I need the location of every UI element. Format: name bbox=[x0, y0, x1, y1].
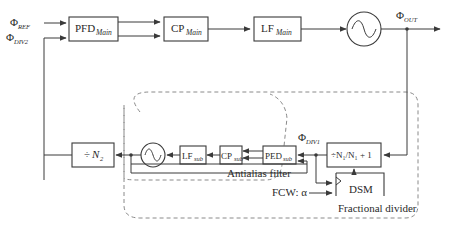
svg-text:Φ: Φ bbox=[6, 31, 14, 43]
svg-text:Φ: Φ bbox=[396, 9, 404, 21]
div2-feedback-arrow bbox=[44, 38, 66, 180]
vco-sub-icon bbox=[141, 143, 165, 167]
svg-text:DSM: DSM bbox=[349, 183, 373, 195]
svg-text:PFD: PFD bbox=[75, 22, 95, 34]
svg-text:DIV1: DIV1 bbox=[305, 138, 320, 145]
phi-out-label: Φ OUT bbox=[396, 9, 417, 23]
lf-sub-block: LF sub bbox=[180, 146, 206, 164]
svg-text:PED: PED bbox=[265, 151, 283, 161]
svg-text:Main: Main bbox=[95, 28, 112, 37]
cp-sub-block: CP sub bbox=[220, 146, 244, 164]
svg-text:sub: sub bbox=[234, 155, 244, 162]
ped-sub-block: PED sub bbox=[263, 146, 296, 164]
svg-text:CP: CP bbox=[171, 22, 184, 34]
pll-block-diagram: Φ REF Φ DIV2 PFD Main CP Main LF Main Φ … bbox=[0, 0, 450, 232]
svg-text:Φ: Φ bbox=[298, 131, 306, 143]
svg-text:Main: Main bbox=[275, 28, 292, 37]
phi-ref-label: Φ REF bbox=[10, 16, 31, 30]
dsm-block: DSM bbox=[336, 173, 384, 196]
svg-text:N: N bbox=[91, 148, 100, 160]
pfd-main-block: PFD Main bbox=[69, 17, 118, 41]
svg-text:sub: sub bbox=[283, 155, 293, 162]
svg-text:÷N₁/N₁ + 1: ÷N₁/N₁ + 1 bbox=[331, 150, 372, 160]
svg-text:sub: sub bbox=[194, 155, 204, 162]
n1-divider-block: ÷N₁/N₁ + 1 bbox=[327, 143, 381, 167]
svg-text:OUT: OUT bbox=[404, 16, 417, 23]
n2-divider-block: ÷ N 2 bbox=[72, 143, 114, 167]
cp-main-block: CP Main bbox=[164, 17, 208, 41]
phi-div1-label: Φ DIV1 bbox=[298, 131, 320, 145]
svg-text:÷: ÷ bbox=[84, 148, 90, 160]
svg-text:LF: LF bbox=[182, 151, 193, 161]
svg-text:REF: REF bbox=[17, 23, 31, 30]
svg-text:LF: LF bbox=[261, 22, 274, 34]
phi-div2-label: Φ DIV2 bbox=[6, 31, 29, 45]
fractional-divider-label: Fractional divider bbox=[338, 202, 417, 214]
svg-text:Φ: Φ bbox=[10, 16, 18, 28]
svg-text:Main: Main bbox=[185, 28, 202, 37]
antialias-filter-label: Antialias filter bbox=[227, 167, 291, 179]
svg-text:DIV2: DIV2 bbox=[13, 38, 29, 45]
lf-main-block: LF Main bbox=[254, 17, 301, 41]
vco-main-icon bbox=[347, 12, 381, 46]
fcw-label: FCW: α bbox=[272, 186, 307, 198]
svg-text:CP: CP bbox=[221, 151, 232, 161]
